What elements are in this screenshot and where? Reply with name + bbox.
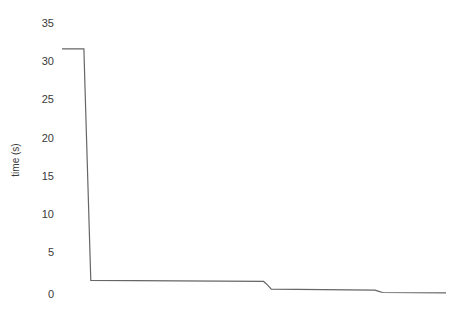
y-tick-label-30: 30 (42, 55, 54, 67)
y-tick-label-35: 35 (42, 17, 54, 29)
y-tick-label-5: 5 (48, 246, 54, 258)
y-tick-label-25: 25 (42, 93, 54, 105)
y-tick-label-20: 20 (42, 132, 54, 144)
chart-figure: 35 30 25 20 15 10 5 0 time (s) (0, 0, 455, 319)
y-tick-label-15: 15 (42, 170, 54, 182)
y-axis-title: time (s) (10, 143, 21, 176)
y-tick-label-0: 0 (48, 288, 54, 300)
y-tick-label-10: 10 (42, 208, 54, 220)
line-chart-canvas: 35 30 25 20 15 10 5 0 time (s) (0, 0, 455, 319)
figure-background (0, 0, 455, 319)
